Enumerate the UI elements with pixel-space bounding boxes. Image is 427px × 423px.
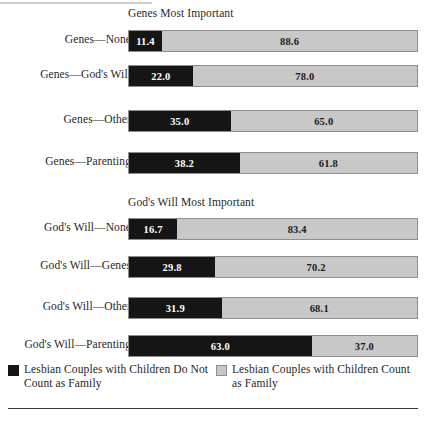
stacked-bar: 35.0 65.0	[128, 110, 418, 132]
table-row: God's Will—Genes 29.8 70.2	[0, 256, 427, 278]
chart-legend: Lesbian Couples with Children Do Not Cou…	[8, 362, 420, 402]
panel-title-gods-will-most-important: God's Will Most Important	[128, 196, 254, 208]
stacked-bar: 29.8 70.2	[128, 256, 418, 278]
legend-label-line1: Lesbian Couples with Children	[232, 363, 378, 375]
stacked-bar: 63.0 37.0	[128, 335, 418, 357]
bar-segment-count: 65.0	[231, 111, 418, 131]
bar-segment-count: 78.0	[193, 66, 417, 86]
stacked-bar: 22.0 78.0	[128, 65, 418, 87]
stacked-bar: 38.2 61.8	[128, 152, 418, 174]
bar-segment-do-not-count: 35.0	[129, 111, 231, 131]
legend-label-do-not-count: Lesbian Couples with Children Do Not Cou…	[24, 362, 214, 390]
bottom-divider-rule	[8, 408, 418, 409]
row-label: God's Will—Parenting	[24, 338, 131, 350]
bar-segment-do-not-count: 29.8	[129, 257, 215, 277]
panel-title-genes-most-important: Genes Most Important	[128, 7, 233, 19]
bar-segment-count: 37.0	[312, 336, 417, 356]
row-label: God's Will—Genes	[40, 259, 131, 271]
row-label: Genes—None	[65, 33, 131, 45]
bar-segment-count: 61.8	[240, 153, 417, 173]
table-row: Genes—Other 35.0 65.0	[0, 110, 427, 132]
table-row: Genes—Parenting 38.2 61.8	[0, 152, 427, 174]
table-row: Genes—God's Will 22.0 78.0	[0, 65, 427, 87]
row-label: God's Will—None	[44, 221, 131, 233]
bar-segment-do-not-count: 38.2	[129, 153, 240, 173]
legend-swatch-light-icon	[216, 365, 227, 376]
legend-label-count: Lesbian Couples with Children Count as F…	[232, 362, 420, 390]
legend-label-line1: Lesbian Couples with Children Do Not	[24, 363, 208, 375]
bar-segment-count: 68.1	[222, 298, 417, 318]
row-label: Genes—Other	[63, 113, 131, 125]
bar-segment-do-not-count: 16.7	[129, 219, 177, 239]
bar-segment-count: 70.2	[215, 257, 417, 277]
stacked-bar: 11.4 88.6	[128, 30, 418, 52]
bar-segment-do-not-count: 63.0	[129, 336, 312, 356]
legend-item-count: Lesbian Couples with Children Count as F…	[216, 362, 420, 390]
bar-segment-do-not-count: 11.4	[129, 31, 162, 51]
legend-item-do-not-count: Lesbian Couples with Children Do Not Cou…	[8, 362, 214, 390]
table-row: God's Will—None 16.7 83.4	[0, 218, 427, 240]
legend-swatch-dark-icon	[8, 365, 19, 376]
bar-segment-count: 83.4	[177, 219, 417, 239]
row-label: Genes—God's Will	[40, 68, 131, 80]
bar-segment-count: 88.6	[162, 31, 417, 51]
table-row: Genes—None 11.4 88.6	[0, 30, 427, 52]
stacked-bar: 31.9 68.1	[128, 297, 418, 319]
top-divider-rule	[0, 2, 152, 4]
stacked-bar: 16.7 83.4	[128, 218, 418, 240]
bar-segment-do-not-count: 22.0	[129, 66, 193, 86]
table-row: God's Will—Other 31.9 68.1	[0, 297, 427, 319]
row-label: God's Will—Other	[43, 300, 131, 312]
stacked-bar-chart-figure: Genes Most Important Genes—None 11.4 88.…	[0, 0, 427, 423]
bar-segment-do-not-count: 31.9	[129, 298, 222, 318]
table-row: God's Will—Parenting 63.0 37.0	[0, 335, 427, 357]
legend-label-line2: Count as Family	[24, 377, 102, 389]
row-label: Genes—Parenting	[45, 155, 131, 167]
